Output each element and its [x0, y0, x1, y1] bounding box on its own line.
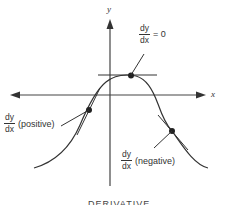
label-negative-fraction: dy dx	[121, 150, 132, 170]
leader-zero	[131, 54, 144, 75]
fraction-denominator: dx	[140, 35, 149, 45]
fraction-numerator: dy	[121, 150, 132, 161]
fraction-denominator: dx	[122, 161, 131, 171]
label-positive-fraction: dy dx	[4, 113, 15, 133]
label-negative-suffix: (negative)	[135, 157, 175, 166]
fraction-denominator: dx	[5, 124, 14, 134]
point-zero-slope	[128, 73, 134, 79]
label-zero-slope-suffix: = 0	[153, 30, 166, 39]
derivative-diagram	[0, 0, 233, 205]
y-axis-up-arrow-icon	[107, 19, 114, 29]
x-axis-label: x	[211, 90, 215, 99]
x-axis-right-arrow-icon	[196, 92, 206, 99]
label-positive-suffix: (positive)	[18, 120, 55, 129]
y-axis-label: y	[107, 5, 111, 14]
label-zero-slope-fraction: dy dx	[139, 24, 150, 44]
fraction-numerator: dy	[4, 113, 15, 124]
leader-negative	[154, 131, 172, 148]
fraction-numerator: dy	[139, 24, 150, 35]
diagram-caption: DERIVATIVE	[88, 199, 150, 205]
x-axis-left-arrow-icon	[10, 92, 20, 99]
